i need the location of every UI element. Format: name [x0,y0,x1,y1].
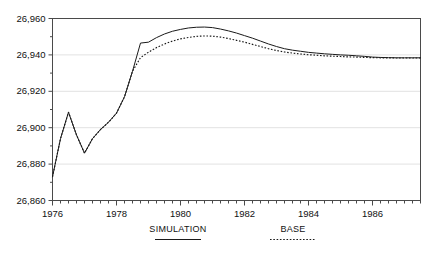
series-line-base [53,36,421,177]
x-tick-label: 1976 [42,208,63,219]
y-tick-label: 26,880 [16,158,45,169]
x-tick-label: 1982 [234,208,255,219]
line-chart: 26,86026,88026,90026,92026,94026,9601976… [0,0,442,254]
x-tick-label: 1986 [362,208,383,219]
y-tick-label: 26,920 [16,85,45,96]
x-tick-label: 1984 [298,208,319,219]
plot-frame [53,19,421,201]
legend-label-simulation: SIMULATION [149,224,206,234]
y-tick-label: 26,900 [16,122,45,133]
x-tick-label: 1980 [170,208,191,219]
y-tick-label: 26,860 [16,195,45,206]
chart-figure: 26,86026,88026,90026,92026,94026,9601976… [0,0,442,254]
y-tick-label: 26,960 [16,13,45,24]
x-tick-label: 1978 [106,208,127,219]
legend-label-base: BASE [280,224,305,234]
series-line-simulation [53,27,421,177]
y-tick-label: 26,940 [16,49,45,60]
